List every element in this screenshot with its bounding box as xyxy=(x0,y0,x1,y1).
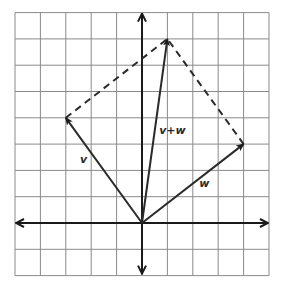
vector-label-w: w xyxy=(199,177,210,190)
vector-label-vw: v+w xyxy=(159,124,186,137)
vector-diagram: vwv+w xyxy=(0,0,283,284)
vector-label-v: v xyxy=(80,153,88,166)
vector-labels: vwv+w xyxy=(80,124,210,191)
vectors xyxy=(66,39,244,223)
